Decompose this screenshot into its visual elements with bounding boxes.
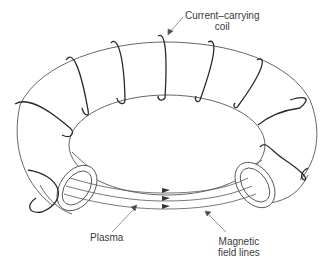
right-cross-section <box>227 155 284 215</box>
coil-label-line1: Current–carrying <box>185 10 259 21</box>
field-line-arrows <box>162 188 170 209</box>
coil-label-line2: coil <box>185 21 259 32</box>
diagram-canvas: Current–carrying coil Plasma Magnetic fi… <box>0 0 328 267</box>
plasma-label-text: Plasma <box>90 232 123 243</box>
field-lines-label: Magnetic field lines <box>218 236 260 258</box>
plasma-label: Plasma <box>90 232 123 243</box>
torus-diagram <box>0 0 328 267</box>
field-lines-label-line1: Magnetic <box>218 236 260 247</box>
coil-label: Current–carrying coil <box>185 10 259 32</box>
field-lines-label-line2: field lines <box>218 247 260 258</box>
label-leaders <box>112 17 226 232</box>
